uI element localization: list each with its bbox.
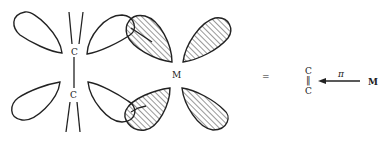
scheme-metal: M <box>368 77 378 87</box>
carbon-bottom-label: C <box>70 90 77 100</box>
d-orbital-lobe <box>125 88 170 130</box>
carbon-top-label: C <box>71 47 78 57</box>
d-orbital-lobe <box>126 16 172 62</box>
d-orbital-lobe <box>182 88 228 130</box>
metal-label: M <box>172 70 181 80</box>
scheme-carbon-bottom: C <box>305 86 312 96</box>
pi-label: π <box>337 69 345 79</box>
orbital-lobe <box>14 12 62 53</box>
arrow-head-icon <box>318 78 326 84</box>
alkene-pi-orbitals: C C <box>12 12 135 132</box>
metal-d-orbitals: M <box>125 16 231 131</box>
d-orbital-lobe <box>183 18 231 62</box>
double-bond: ‖ <box>306 75 311 86</box>
bonding-scheme: C ‖ C π M <box>305 66 378 96</box>
orbital-lobe <box>12 82 60 120</box>
equals-sign: = <box>262 72 270 82</box>
orbital-diagram: C C M = C ‖ C π M <box>0 0 389 141</box>
